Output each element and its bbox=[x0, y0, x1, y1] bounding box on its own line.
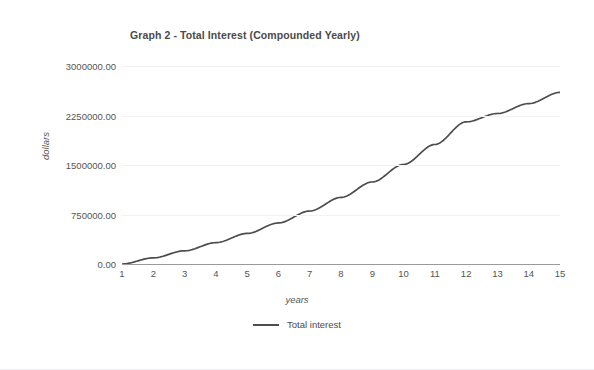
x-axis-tick-label: 15 bbox=[555, 268, 566, 279]
gridline bbox=[122, 165, 560, 166]
gridline bbox=[122, 116, 560, 117]
x-axis-tick-label: 13 bbox=[492, 268, 503, 279]
plot-area bbox=[122, 66, 560, 264]
x-axis-title: years bbox=[0, 294, 594, 305]
y-axis-tick-label: 1500000.00 bbox=[66, 160, 116, 171]
x-axis-tick-label: 5 bbox=[244, 268, 249, 279]
y-axis-tick-label: 750000.00 bbox=[71, 209, 116, 220]
gridline bbox=[122, 215, 560, 216]
chart-title: Graph 2 - Total Interest (Compounded Yea… bbox=[130, 29, 360, 41]
x-axis-tick-label: 11 bbox=[430, 268, 440, 279]
x-axis-tick-label: 10 bbox=[398, 268, 409, 279]
y-axis-tick-label: 0.00 bbox=[98, 259, 117, 270]
gridline bbox=[122, 66, 560, 67]
x-axis-tick-label: 1 bbox=[119, 268, 124, 279]
x-axis-tick-label: 6 bbox=[276, 268, 281, 279]
x-axis-tick-label: 9 bbox=[370, 268, 375, 279]
y-axis-tick-label: 2250000.00 bbox=[66, 110, 116, 121]
x-axis-tick-label: 8 bbox=[338, 268, 343, 279]
y-axis-tick-label: 3000000.00 bbox=[66, 61, 116, 72]
x-axis-ticks: 123456789101112131415 bbox=[122, 268, 560, 286]
x-axis-tick-label: 7 bbox=[307, 268, 312, 279]
x-axis-tick-label: 2 bbox=[151, 268, 156, 279]
x-axis-line bbox=[122, 264, 560, 265]
x-axis-tick-label: 14 bbox=[523, 268, 534, 279]
chart-legend: Total interest bbox=[0, 319, 594, 330]
x-axis-tick-label: 3 bbox=[182, 268, 187, 279]
chart-container: Graph 2 - Total Interest (Compounded Yea… bbox=[0, 0, 594, 370]
x-axis-tick-label: 12 bbox=[461, 268, 472, 279]
y-axis-ticks: 3000000.002250000.001500000.00750000.000… bbox=[0, 0, 116, 370]
legend-line-swatch-icon bbox=[253, 324, 279, 326]
x-axis-tick-label: 4 bbox=[213, 268, 218, 279]
legend-label-total-interest: Total interest bbox=[287, 319, 341, 330]
